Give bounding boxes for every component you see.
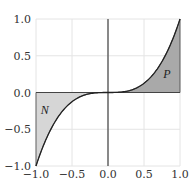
x-tick-label: −0.5 [59, 168, 86, 181]
region-p-label: P [162, 67, 171, 81]
y-tick-label: −1.0 [4, 160, 31, 173]
x-tick-label: 1.0 [171, 168, 189, 181]
y-tick-label: −0.5 [4, 123, 31, 136]
x-axis-tick-labels: −1.0−0.50.00.51.0 [23, 168, 189, 181]
y-axis-tick-labels: −1.0−0.50.00.51.0 [4, 13, 31, 173]
y-tick-label: 0.0 [14, 87, 32, 100]
cubic-function-chart: −1.0−0.50.00.51.0 −1.0−0.50.00.51.0 N P [0, 0, 196, 190]
x-tick-label: 0.0 [99, 168, 117, 181]
y-tick-label: 0.5 [14, 50, 32, 63]
x-tick-label: 0.5 [135, 168, 153, 181]
region-n-label: N [40, 103, 50, 117]
y-tick-label: 1.0 [14, 13, 32, 26]
